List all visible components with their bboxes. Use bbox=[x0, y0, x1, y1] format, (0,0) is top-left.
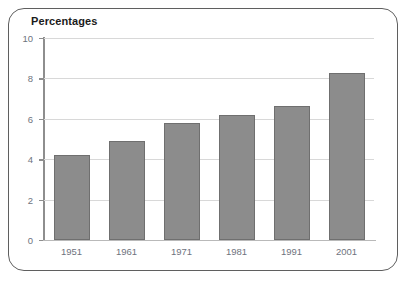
y-tick-mark-10 bbox=[39, 38, 43, 39]
plot-area bbox=[44, 38, 374, 240]
x-tick-label-1981: 1981 bbox=[226, 246, 247, 257]
bar-1951 bbox=[54, 155, 90, 240]
y-tick-label-10: 10 bbox=[22, 33, 33, 44]
y-tick-mark-6 bbox=[39, 119, 43, 120]
y-tick-mark-4 bbox=[39, 159, 43, 160]
x-tick-label-1951: 1951 bbox=[61, 246, 82, 257]
chart-figure: Percentages 0246810 19511961197119811991… bbox=[0, 0, 408, 287]
x-tick-label-2001: 2001 bbox=[336, 246, 357, 257]
gridline-6 bbox=[44, 119, 374, 120]
chart-title: Percentages bbox=[31, 15, 98, 27]
y-tick-label-4: 4 bbox=[28, 154, 33, 165]
bar-2001 bbox=[329, 73, 365, 240]
gridline-8 bbox=[44, 78, 374, 79]
y-tick-label-6: 6 bbox=[28, 113, 33, 124]
bar-1971 bbox=[164, 123, 200, 240]
y-tick-mark-0 bbox=[39, 240, 43, 241]
y-tick-label-8: 8 bbox=[28, 73, 33, 84]
x-tick-label-1961: 1961 bbox=[116, 246, 137, 257]
y-tick-label-2: 2 bbox=[28, 194, 33, 205]
bar-1981 bbox=[219, 115, 255, 240]
gridline-10 bbox=[44, 38, 374, 39]
gridline-2 bbox=[44, 200, 374, 201]
bar-1991 bbox=[274, 106, 310, 240]
x-tick-label-1971: 1971 bbox=[171, 246, 192, 257]
y-tick-mark-2 bbox=[39, 200, 43, 201]
gridline-0 bbox=[42, 240, 376, 241]
y-tick-mark-8 bbox=[39, 78, 43, 79]
gridline-4 bbox=[44, 159, 374, 160]
bar-1961 bbox=[109, 141, 145, 240]
y-tick-label-0: 0 bbox=[28, 235, 33, 246]
x-tick-label-1991: 1991 bbox=[281, 246, 302, 257]
